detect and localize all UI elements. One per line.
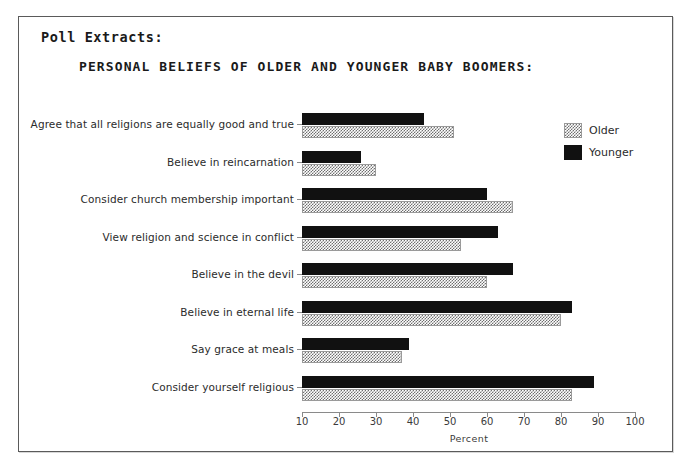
bar-younger [302,376,594,388]
x-tick-label: 90 [592,416,605,427]
bar-younger [302,188,487,200]
bar-older [302,276,487,288]
bar-older [302,239,461,251]
bar-younger [302,263,513,275]
bar-older [302,389,572,401]
chart-row: Agree that all religions are equally goo… [0,112,690,150]
category-label: Consider church membership important [81,193,294,205]
chart-row: Say grace at meals [0,337,690,375]
bar-older [302,201,513,213]
x-tick-label: 40 [407,416,420,427]
x-tick-label: 70 [518,416,531,427]
chart-row: Believe in reincarnation [0,150,690,188]
x-tick-label: 30 [370,416,383,427]
chart-row: Consider yourself religious [0,375,690,413]
category-label: View religion and science in conflict [103,231,294,243]
bar-younger [302,113,424,125]
bar-older [302,351,402,363]
x-axis-title: Percent [450,433,489,444]
x-tick-label: 80 [555,416,568,427]
x-tick-label: 20 [333,416,346,427]
bar-older [302,126,454,138]
category-label: Believe in reincarnation [167,156,294,168]
chart-row: Consider church membership important [0,187,690,225]
category-label: Believe in the devil [191,268,294,280]
x-tick-label: 50 [444,416,457,427]
category-label: Consider yourself religious [152,381,294,393]
chart-row: Believe in the devil [0,262,690,300]
x-tick-label: 60 [481,416,494,427]
bar-younger [302,301,572,313]
x-tick-label: 100 [625,416,644,427]
category-label: Agree that all religions are equally goo… [31,118,294,130]
x-axis-line [302,412,636,413]
bar-younger [302,226,498,238]
bar-chart-plot: Agree that all religions are equally goo… [0,0,690,465]
chart-row: Believe in eternal life [0,300,690,338]
category-label: Believe in eternal life [180,306,294,318]
screenshot-root: Poll Extracts: PERSONAL BELIEFS OF OLDER… [0,0,690,465]
bar-younger [302,151,361,163]
category-label: Say grace at meals [191,343,294,355]
x-tick-label: 10 [296,416,309,427]
chart-row: View religion and science in conflict [0,225,690,263]
bar-older [302,314,561,326]
bar-younger [302,338,409,350]
bar-older [302,164,376,176]
